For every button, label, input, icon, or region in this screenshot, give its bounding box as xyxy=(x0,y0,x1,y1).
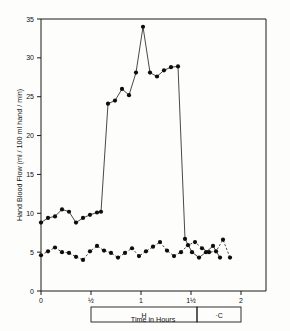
data-point-marker xyxy=(116,255,120,259)
data-point-marker xyxy=(141,25,145,29)
data-point-marker xyxy=(193,240,197,244)
y-axis-title: Hand Blood Flow (ml / 100 ml hand / min) xyxy=(15,89,24,221)
treatment-label: ·C xyxy=(215,312,222,319)
y-tick-label: 30 xyxy=(26,54,34,61)
data-point-marker xyxy=(218,255,222,259)
data-point-marker xyxy=(74,221,78,225)
data-point-marker xyxy=(102,248,106,252)
data-point-marker xyxy=(162,68,166,72)
data-point-marker xyxy=(151,245,155,249)
data-point-marker xyxy=(106,102,110,106)
data-point-marker xyxy=(60,250,64,254)
series-hand-blood-flow-experimental xyxy=(39,25,222,260)
data-point-marker xyxy=(197,255,201,259)
y-axis-ticks: 05101520253035 xyxy=(26,16,41,295)
data-point-marker xyxy=(179,250,183,254)
x-tick-label: 1 xyxy=(139,297,143,304)
data-point-marker xyxy=(99,210,103,214)
y-tick-label: 15 xyxy=(26,171,34,178)
x-tick-label: 0 xyxy=(39,297,43,304)
data-point-marker xyxy=(46,216,50,220)
data-point-marker xyxy=(88,213,92,217)
data-point-marker xyxy=(67,251,71,255)
data-point-marker xyxy=(200,246,204,250)
data-point-marker xyxy=(88,249,92,253)
data-point-marker xyxy=(53,214,57,218)
chart-figure: 05101520253035 0½11½2 H·C Time in Hours … xyxy=(0,0,290,331)
data-point-marker xyxy=(123,251,127,255)
data-point-marker xyxy=(109,251,113,255)
data-point-marker xyxy=(95,244,99,248)
x-tick-label: 2 xyxy=(239,297,243,304)
data-point-marker xyxy=(67,210,71,214)
data-point-marker xyxy=(211,244,215,248)
data-point-marker xyxy=(214,249,218,253)
y-tick-label: 10 xyxy=(26,210,34,217)
data-point-marker xyxy=(186,243,190,247)
x-tick-label: 1½ xyxy=(186,297,196,304)
data-point-marker xyxy=(39,221,43,225)
data-point-marker xyxy=(81,216,85,220)
data-point-marker xyxy=(81,258,85,262)
data-point-marker xyxy=(74,255,78,259)
data-point-marker xyxy=(221,238,225,242)
data-point-marker xyxy=(172,254,176,258)
x-axis-ticks: 0½11½2 xyxy=(39,291,243,304)
data-point-marker xyxy=(113,99,117,103)
data-point-marker xyxy=(60,207,64,211)
x-axis-title: Time in Hours xyxy=(131,315,176,324)
data-point-marker xyxy=(148,71,152,75)
data-series-layer xyxy=(39,25,232,262)
series-hand-blood-flow-control xyxy=(39,238,232,262)
data-point-marker xyxy=(130,246,134,250)
data-point-marker xyxy=(158,240,162,244)
data-point-marker xyxy=(169,65,173,69)
data-point-marker xyxy=(46,249,50,253)
data-point-marker xyxy=(134,71,138,75)
y-tick-label: 25 xyxy=(26,93,34,100)
series-line xyxy=(41,27,220,258)
data-point-marker xyxy=(155,74,159,78)
data-point-marker xyxy=(228,255,232,259)
axis-frame xyxy=(41,19,266,291)
y-tick-label: 0 xyxy=(30,288,34,295)
data-point-marker xyxy=(39,253,43,257)
data-point-marker xyxy=(53,245,57,249)
blood-flow-line-chart: 05101520253035 0½11½2 H·C Time in Hours … xyxy=(0,0,290,331)
x-tick-label: ½ xyxy=(88,297,94,304)
data-point-marker xyxy=(183,237,187,241)
y-tick-label: 35 xyxy=(26,16,34,23)
y-tick-label: 5 xyxy=(30,249,34,256)
data-point-marker xyxy=(127,93,131,97)
data-point-marker xyxy=(137,254,141,258)
treatment-interval-c: ·C xyxy=(197,307,241,322)
data-point-marker xyxy=(95,210,99,214)
data-point-marker xyxy=(207,250,211,254)
data-point-marker xyxy=(165,248,169,252)
data-point-marker xyxy=(120,87,124,91)
data-point-marker xyxy=(190,250,194,254)
data-point-marker xyxy=(144,249,148,253)
data-point-marker xyxy=(176,64,180,68)
y-tick-label: 20 xyxy=(26,132,34,139)
